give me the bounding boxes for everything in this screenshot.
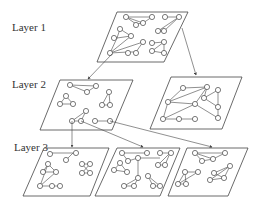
arrow-l1-to-l2-right	[182, 28, 196, 75]
arrow-l2-to-l3-middle	[81, 121, 143, 147]
multilayer-graph-diagram: Layer 1 Layer 2 Layer 3	[0, 0, 263, 208]
layer-2-right-plane	[150, 77, 242, 129]
layer-1-plane	[97, 12, 188, 62]
arrow-l2-to-l3-right	[110, 121, 212, 147]
layer-3-left-plane	[23, 148, 109, 196]
layer-2-left-plane	[40, 80, 133, 130]
arrow-l1-to-l2-left	[88, 54, 112, 79]
diagram-graphics	[0, 0, 263, 208]
layer-3-middle-plane	[95, 148, 180, 196]
layer-3-right-plane	[168, 148, 248, 196]
